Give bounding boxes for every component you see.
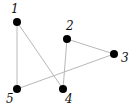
graph-diagram: 1 2 3 4 5 xyxy=(0,0,134,108)
node-2 xyxy=(63,35,71,43)
node-label-2: 2 xyxy=(65,19,74,33)
node-1 xyxy=(13,18,21,26)
edge-2-4 xyxy=(63,39,67,89)
edge-1-4 xyxy=(17,22,63,89)
edge-2-3 xyxy=(67,39,114,54)
node-label-1: 1 xyxy=(11,2,19,16)
node-5 xyxy=(13,85,21,93)
node-label-4: 4 xyxy=(64,92,73,106)
node-label-5: 5 xyxy=(6,92,14,106)
node-label-3: 3 xyxy=(121,51,129,65)
node-3 xyxy=(110,50,118,58)
